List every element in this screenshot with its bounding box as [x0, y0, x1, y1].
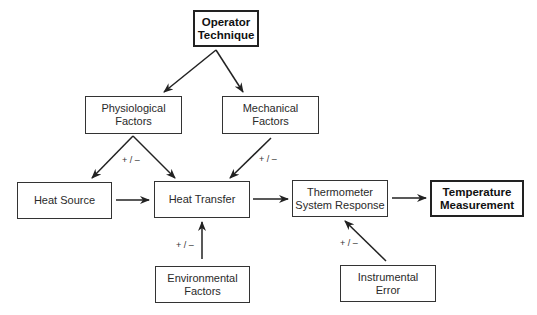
edge-label-physiological: + / – — [122, 155, 140, 165]
node-thermometer-line1: Thermometer — [307, 186, 373, 199]
node-thermometer-line2: System Response — [295, 199, 384, 212]
node-heat-transfer-label: Heat Transfer — [169, 193, 236, 206]
node-thermometer-system-response: Thermometer System Response — [292, 180, 388, 217]
node-mechanical-factors-line2: Factors — [252, 115, 289, 128]
node-physiological-factors: Physiological Factors — [85, 96, 182, 134]
node-environmental-factors: Environmental Factors — [155, 266, 250, 303]
node-temperature-measurement-line2: Measurement — [440, 199, 514, 212]
arrow-operator-mechanical — [216, 50, 243, 92]
node-operator-technique-line2: Technique — [198, 29, 255, 42]
node-operator-technique: Operator Technique — [193, 10, 259, 47]
node-heat-transfer: Heat Transfer — [154, 181, 250, 218]
node-temperature-measurement: Temperature Measurement — [430, 180, 524, 217]
edge-label-mechanical: + / – — [259, 154, 277, 164]
node-instrumental-error-line2: Error — [376, 284, 400, 297]
node-mechanical-factors: Mechanical Factors — [222, 96, 319, 134]
node-instrumental-error: Instrumental Error — [340, 265, 436, 302]
node-environmental-factors-line2: Factors — [184, 285, 221, 298]
node-physiological-factors-line1: Physiological — [101, 102, 165, 115]
node-mechanical-factors-line1: Mechanical — [243, 102, 299, 115]
arrow-operator-physiological — [164, 50, 216, 92]
edge-label-instrumental: + / – — [340, 238, 358, 248]
node-temperature-measurement-line1: Temperature — [443, 186, 512, 199]
node-heat-source: Heat Source — [17, 182, 112, 219]
node-environmental-factors-line1: Environmental — [167, 272, 237, 285]
edge-label-environmental: + / – — [176, 240, 194, 250]
node-operator-technique-line1: Operator — [202, 16, 251, 29]
node-physiological-factors-line2: Factors — [115, 115, 152, 128]
node-instrumental-error-line1: Instrumental — [358, 271, 419, 284]
node-heat-source-label: Heat Source — [34, 194, 95, 207]
